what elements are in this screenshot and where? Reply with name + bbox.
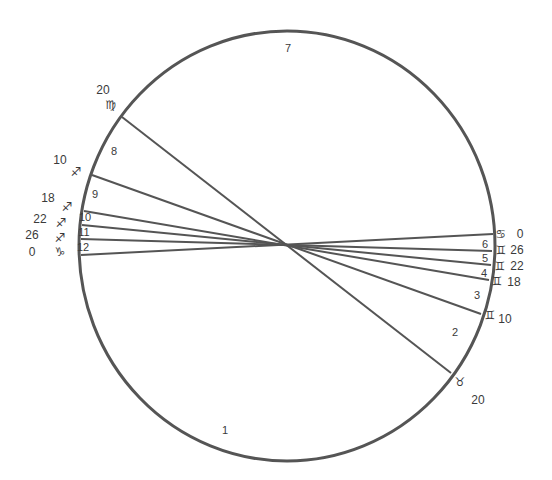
gemini-icon: ♊ [485, 308, 496, 322]
cusp-degree: 18 [41, 191, 55, 205]
cusp-label-house-2: 20♉ [455, 375, 485, 407]
sagittarius-icon: ♐ [62, 200, 73, 214]
cusp-label-house-8: 20♍ [96, 83, 116, 112]
cusp-degree: 22 [33, 212, 47, 226]
house-chart-diagram: 123456789101112 20♍10♐18♐22♐26♐0♑0♋26♊22… [0, 0, 552, 480]
capricorn-icon: ♑ [55, 245, 66, 259]
virgo-icon: ♍ [106, 98, 117, 112]
house-number-7: 7 [285, 42, 291, 54]
sagittarius-icon: ♐ [55, 231, 66, 245]
cusp-degree: 0 [29, 245, 36, 259]
cusp-degree: 26 [25, 228, 39, 242]
cusp-degree: 10 [498, 312, 512, 326]
house-number-11: 11 [78, 226, 89, 238]
house-number-2: 2 [452, 326, 458, 338]
cusp-label-house-7: 0♋ [496, 227, 524, 241]
house-number-labels: 123456789101112 [77, 42, 488, 436]
gemini-icon: ♊ [496, 243, 507, 257]
house-number-9: 9 [92, 188, 98, 200]
cusp-degree: 0 [517, 227, 524, 241]
cusp-label-house-10: 18♐ [41, 191, 72, 214]
house-number-4: 4 [481, 267, 487, 279]
cusp-degree: 26 [510, 243, 524, 257]
cusp-degree: 22 [510, 259, 524, 273]
sagittarius-icon: ♐ [56, 216, 67, 230]
cusp-label-house-4: 18♊ [492, 274, 521, 289]
house-number-5: 5 [482, 252, 488, 264]
house-number-8: 8 [111, 145, 117, 157]
cusp-label-house-6: 26♊ [496, 243, 524, 257]
cusp-label-house-3: 10♊ [485, 308, 512, 326]
sagittarius-icon: ♐ [71, 165, 82, 179]
cancer-icon: ♋ [496, 227, 507, 241]
house-number-12: 12 [77, 241, 89, 253]
cusp-degree: 18 [507, 275, 521, 289]
taurus-icon: ♉ [455, 375, 466, 389]
cusp-line-1-7 [81, 234, 493, 255]
cusp-degree: 10 [53, 153, 67, 167]
gemini-icon: ♊ [495, 259, 506, 273]
cusp-degree: 20 [471, 393, 485, 407]
cusp-degree: 20 [96, 83, 110, 97]
house-number-6: 6 [482, 238, 488, 250]
house-number-1: 1 [222, 424, 228, 436]
house-number-3: 3 [474, 289, 480, 301]
house-cusp-lines [81, 117, 493, 373]
cusp-label-house-5: 22♊ [495, 259, 524, 273]
gemini-icon: ♊ [492, 274, 503, 288]
house-number-10: 10 [79, 211, 91, 223]
cusp-label-house-12: 26♐ [25, 228, 65, 245]
cusp-label-house-9: 10♐ [53, 153, 81, 179]
cusp-label-house-1: 0♑ [29, 245, 66, 259]
